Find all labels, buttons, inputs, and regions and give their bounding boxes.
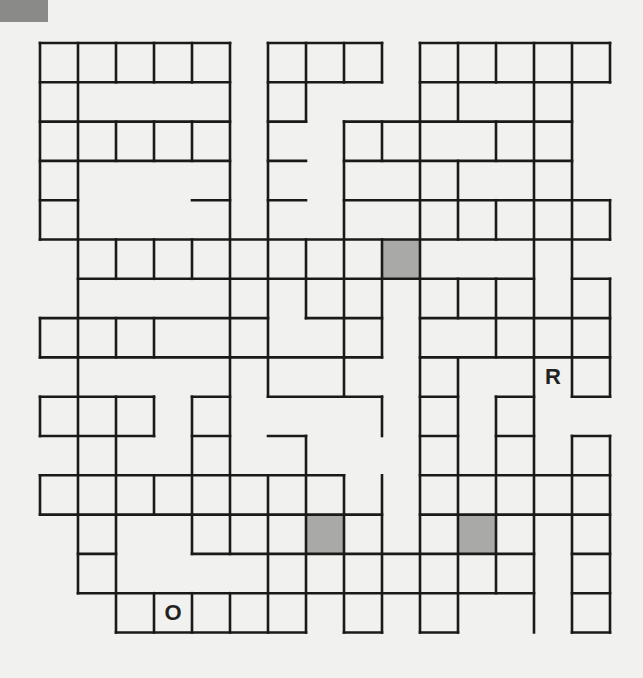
cell-letter-o: O	[154, 600, 192, 626]
shaded-cell	[458, 515, 496, 554]
maze-grid	[0, 0, 643, 678]
shaded-cell	[382, 240, 420, 279]
shaded-cell	[306, 515, 344, 554]
cell-letter-r: R	[534, 364, 572, 390]
